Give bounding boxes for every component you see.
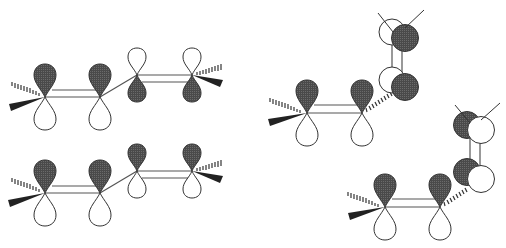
p-lobe-open bbox=[468, 166, 495, 193]
p-lobe-filled bbox=[296, 80, 318, 113]
p-lobe-filled bbox=[392, 25, 419, 52]
p-lobe-open bbox=[89, 97, 111, 130]
p-lobe-filled bbox=[374, 174, 396, 207]
p-lobe-open bbox=[183, 48, 201, 75]
orbital-diagram bbox=[0, 0, 506, 248]
p-lobe-open bbox=[128, 48, 146, 75]
p-lobe-open bbox=[429, 207, 451, 240]
p-lobe-open bbox=[89, 193, 111, 226]
hashed-wedge-icon bbox=[348, 192, 378, 207]
hashed-wedge-icon bbox=[197, 160, 221, 171]
bonds bbox=[45, 171, 192, 193]
hashed-wedge-icon bbox=[270, 98, 300, 113]
panel-top-right bbox=[268, 10, 424, 146]
hashed-wedge-icon bbox=[12, 178, 39, 192]
p-lobe-open bbox=[468, 117, 495, 144]
p-lobe-open bbox=[34, 193, 56, 226]
p-lobe-filled bbox=[392, 74, 419, 101]
p-lobe-open bbox=[183, 171, 201, 198]
substituent-bond bbox=[481, 103, 500, 120]
hashed-wedge-icon bbox=[197, 64, 221, 75]
p-lobe-filled bbox=[128, 144, 146, 171]
p-lobe-filled bbox=[183, 75, 201, 102]
panel-bottom-left bbox=[8, 144, 223, 226]
hashed-wedge-icon bbox=[12, 82, 39, 96]
p-lobe-filled bbox=[34, 64, 56, 97]
panel-top-left bbox=[9, 48, 223, 130]
panel-bottom-right bbox=[348, 103, 500, 240]
p-lobe-filled bbox=[34, 160, 56, 193]
p-lobe-open bbox=[351, 113, 373, 146]
p-lobe-filled bbox=[183, 144, 201, 171]
bonds bbox=[45, 75, 192, 97]
p-lobe-open bbox=[296, 113, 318, 146]
p-lobe-open bbox=[374, 207, 396, 240]
substituent-bond bbox=[405, 10, 424, 28]
p-lobe-open bbox=[34, 97, 56, 130]
